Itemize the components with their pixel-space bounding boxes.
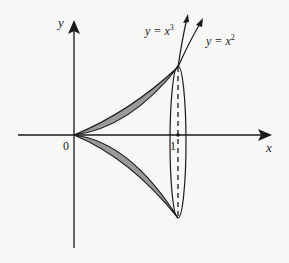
solid-of-revolution-figure: y x 0 1 y = x3 y = x2	[0, 0, 289, 263]
y-axis-label: y	[56, 15, 64, 30]
tick-point	[176, 133, 180, 137]
upper-shaded-region	[74, 67, 178, 135]
square-label: y = x2	[205, 33, 235, 48]
cubic-label: y = x3	[144, 23, 174, 38]
lower-shaded-region	[74, 135, 178, 218]
x-axis-label: x	[265, 140, 272, 155]
origin-label: 0	[63, 139, 69, 153]
cubic-curve	[178, 18, 187, 67]
tick-label-1: 1	[170, 139, 176, 153]
diagram-canvas: y x 0 1 y = x3 y = x2	[0, 0, 289, 263]
square-arrow-icon	[196, 18, 203, 27]
cubic-arrow-icon	[183, 14, 189, 23]
